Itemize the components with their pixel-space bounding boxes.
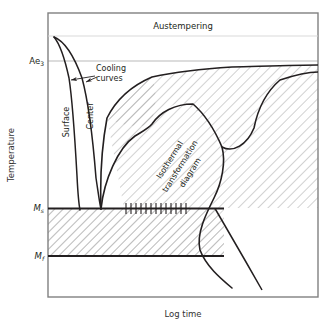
martensite-band-hatch-right — [48, 208, 224, 256]
cooling-curves-label-line2: curves — [96, 74, 123, 83]
figure-title: Austempering — [153, 21, 213, 31]
center-curve-label: Center — [86, 102, 95, 130]
figure-container: Ae3 Ms Mf Temperature Log time Austemper… — [0, 0, 331, 329]
cooling-curves-label-line1: Cooling — [96, 64, 126, 73]
y-axis-title: Temperature — [6, 128, 16, 183]
ttt-austempering-diagram: Ae3 Ms Mf Temperature Log time Austemper… — [0, 0, 331, 329]
x-axis-title: Log time — [164, 309, 201, 319]
surface-curve-label: Surface — [62, 107, 71, 138]
